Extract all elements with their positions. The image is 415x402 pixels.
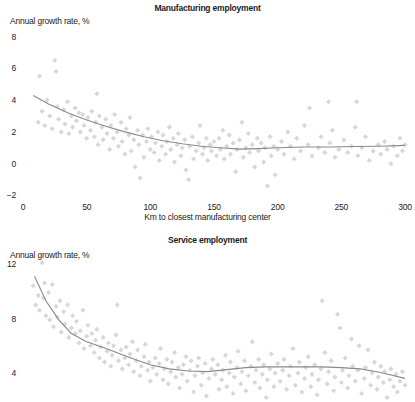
service-scatter-point bbox=[269, 351, 274, 356]
service-scatter-point bbox=[366, 347, 371, 352]
manufacturing-scatter-point bbox=[131, 137, 136, 142]
manufacturing-scatter-point bbox=[161, 133, 166, 138]
service-scatter-point bbox=[210, 357, 215, 362]
manufacturing-scatter-point bbox=[222, 156, 227, 161]
manufacturing-scatter-point bbox=[259, 140, 264, 145]
service-scatter-point bbox=[322, 350, 327, 355]
manufacturing-scatter-point bbox=[378, 152, 383, 157]
service-scatter-point bbox=[374, 387, 379, 392]
service-scatter-point bbox=[340, 368, 345, 373]
service-scatter-point bbox=[139, 364, 144, 369]
manufacturing-y-tick-label: 2 bbox=[11, 127, 16, 137]
manufacturing-scatter-point bbox=[326, 99, 331, 104]
manufacturing-scatter-point bbox=[306, 142, 311, 147]
manufacturing-scatter-point bbox=[341, 137, 346, 142]
manufacturing-scatter-point bbox=[37, 74, 42, 79]
service-scatter-point bbox=[130, 339, 135, 344]
service-trend-line bbox=[35, 276, 406, 378]
service-scatter-point bbox=[252, 380, 257, 385]
manufacturing-scatter-point bbox=[104, 131, 109, 136]
manufacturing-scatter-point bbox=[261, 160, 266, 165]
manufacturing-scatter-point bbox=[97, 113, 102, 118]
service-scatter-point bbox=[203, 361, 208, 366]
manufacturing-trend-line bbox=[33, 95, 405, 149]
service-scatter-point bbox=[93, 338, 98, 343]
service-scatter-point bbox=[141, 354, 146, 359]
charts-canvas: 86420−20501001502002503001284 bbox=[0, 0, 415, 402]
service-scatter-point bbox=[242, 358, 247, 363]
manufacturing-scatter-point bbox=[153, 140, 158, 145]
service-scatter-point bbox=[232, 375, 237, 380]
service-scatter-point bbox=[101, 335, 106, 340]
service-scatter-point bbox=[264, 395, 269, 400]
manufacturing-scatter-point bbox=[241, 155, 246, 160]
manufacturing-scatter-point bbox=[382, 139, 387, 144]
manufacturing-scatter-point bbox=[400, 148, 405, 153]
service-scatter-point bbox=[357, 343, 362, 348]
service-scatter-point bbox=[250, 339, 255, 344]
service-scatter-point bbox=[187, 368, 192, 373]
service-scatter-point bbox=[185, 379, 190, 384]
service-scatter-point bbox=[199, 383, 204, 388]
service-scatter-point bbox=[189, 358, 194, 363]
service-scatter-point bbox=[395, 390, 400, 395]
service-scatter-point bbox=[177, 385, 182, 390]
manufacturing-scatter-point bbox=[122, 152, 127, 157]
manufacturing-scatter-point bbox=[54, 69, 59, 74]
service-scatter-point bbox=[306, 354, 311, 359]
manufacturing-scatter-point bbox=[281, 152, 286, 157]
manufacturing-scatter-point bbox=[256, 148, 261, 153]
manufacturing-x-tick-label: 200 bbox=[271, 202, 285, 212]
manufacturing-scatter-point bbox=[78, 129, 83, 134]
manufacturing-y-tick-label: 0 bbox=[11, 159, 16, 169]
manufacturing-scatter-point bbox=[138, 175, 143, 180]
service-scatter-point bbox=[157, 361, 162, 366]
manufacturing-scatter-point bbox=[74, 118, 79, 123]
manufacturing-scatter-point bbox=[152, 150, 157, 155]
service-scatter-point bbox=[116, 358, 121, 363]
manufacturing-scatter-point bbox=[101, 137, 106, 142]
manufacturing-scatter-point bbox=[231, 140, 236, 145]
manufacturing-scatter-point bbox=[327, 140, 332, 145]
service-scatter-point bbox=[43, 313, 48, 318]
service-scatter-point bbox=[161, 377, 166, 382]
service-scatter-point bbox=[33, 302, 38, 307]
manufacturing-chart-title: Manufacturing employment bbox=[0, 3, 415, 13]
manufacturing-x-tick-label: 300 bbox=[398, 202, 412, 212]
manufacturing-scatter-point bbox=[180, 145, 185, 150]
service-scatter-point bbox=[284, 387, 289, 392]
manufacturing-scatter-point bbox=[363, 134, 368, 139]
service-scatter-point bbox=[236, 349, 241, 354]
manufacturing-scatter-point bbox=[141, 155, 146, 160]
manufacturing-scatter-point bbox=[246, 131, 251, 136]
service-scatter-point bbox=[362, 376, 367, 381]
service-scatter-point bbox=[372, 360, 377, 365]
manufacturing-scatter-point bbox=[252, 164, 257, 169]
service-scatter-point bbox=[335, 312, 340, 317]
manufacturing-scatter-point bbox=[316, 145, 321, 150]
manufacturing-scatter-point bbox=[112, 112, 117, 117]
service-scatter-point bbox=[42, 281, 47, 286]
manufacturing-scatter-point bbox=[82, 123, 87, 128]
manufacturing-scatter-point bbox=[318, 134, 323, 139]
manufacturing-scatter-point bbox=[133, 164, 138, 169]
service-scatter-point bbox=[224, 384, 229, 389]
manufacturing-x-axis-label: Km to closest manufacturing center bbox=[0, 212, 415, 222]
service-scatter-point bbox=[293, 383, 298, 388]
manufacturing-scatter-point bbox=[247, 150, 252, 155]
service-scatter-point bbox=[153, 355, 158, 360]
service-scatter-point bbox=[310, 372, 315, 377]
service-scatter-point bbox=[253, 368, 258, 373]
manufacturing-scatter-point bbox=[336, 147, 341, 152]
service-scatter-point bbox=[172, 350, 177, 355]
service-scatter-point bbox=[223, 353, 228, 358]
service-scatter-point bbox=[97, 355, 102, 360]
manufacturing-scatter-point bbox=[135, 128, 140, 133]
manufacturing-scatter-point bbox=[197, 123, 202, 128]
service-scatter-point bbox=[111, 343, 116, 348]
manufacturing-scatter-point bbox=[243, 145, 248, 150]
manufacturing-scatter-point bbox=[285, 129, 290, 134]
figure-canvas: 86420−20501001502002503001284 Manufactur… bbox=[0, 0, 415, 402]
service-scatter-point bbox=[320, 298, 325, 303]
service-scatter-point bbox=[120, 366, 125, 371]
